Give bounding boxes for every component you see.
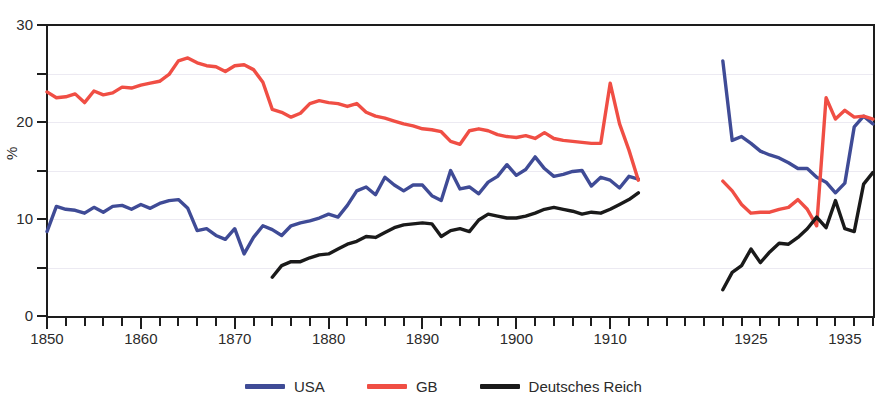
x-tick-1888 <box>403 318 405 326</box>
x-tick-1938 <box>872 318 874 326</box>
y-tick-label-0: 0 <box>0 308 33 323</box>
x-tick-1924 <box>741 318 743 326</box>
series-line-gb-seg1 <box>47 58 638 180</box>
series-line-deutsches-reich-seg1 <box>272 193 638 277</box>
x-tick-1902 <box>534 318 536 326</box>
y-tick-label-20: 20 <box>0 114 33 129</box>
x-tick-1908 <box>590 318 592 326</box>
y-tick-label-30: 30 <box>0 17 33 32</box>
x-tick-1900 <box>515 318 517 329</box>
x-tick-1912 <box>628 318 630 326</box>
x-tick-1872 <box>253 318 255 326</box>
y-tick-major-0 <box>37 315 46 317</box>
x-tick-1922 <box>722 318 724 326</box>
legend-item-gb[interactable]: GB <box>367 379 438 394</box>
y-tick-major-30 <box>37 24 46 26</box>
x-tick-1906 <box>572 318 574 326</box>
plot-frame-left <box>46 24 48 318</box>
x-tick-1882 <box>346 318 348 326</box>
x-tick-1896 <box>478 318 480 326</box>
y-tick-major-20 <box>37 121 46 123</box>
x-tick-label-1890: 1890 <box>392 331 452 346</box>
x-tick-1858 <box>121 318 123 326</box>
legend-label: GB <box>416 379 438 394</box>
legend-swatch-icon <box>367 384 407 389</box>
series-line-deutsches-reich-seg2 <box>723 172 873 289</box>
gridline-y-15 <box>48 171 873 172</box>
x-tick-label-1900: 1900 <box>486 331 546 346</box>
x-tick-1850 <box>46 318 48 329</box>
x-tick-1910 <box>609 318 611 329</box>
gridline-y-10 <box>48 219 873 220</box>
x-tick-1860 <box>140 318 142 329</box>
chart-legend: USAGBDeutsches Reich <box>0 379 887 394</box>
x-tick-label-1910: 1910 <box>580 331 640 346</box>
gridline-y-20 <box>48 122 873 123</box>
x-tick-1894 <box>459 318 461 326</box>
x-tick-1920 <box>703 318 705 326</box>
x-tick-1886 <box>384 318 386 326</box>
x-tick-1878 <box>309 318 311 326</box>
legend-item-usa[interactable]: USA <box>245 379 325 394</box>
x-tick-1852 <box>65 318 67 326</box>
x-tick-1856 <box>102 318 104 326</box>
plot-frame-top <box>46 24 875 26</box>
gridline-y-5 <box>48 268 873 269</box>
x-tick-1918 <box>684 318 686 326</box>
x-tick-1866 <box>196 318 198 326</box>
x-tick-1892 <box>440 318 442 326</box>
x-tick-1876 <box>290 318 292 326</box>
x-tick-1884 <box>365 318 367 326</box>
plot-frame-right <box>873 24 875 318</box>
line-chart: 0102030 % 185018601870188018901900191019… <box>0 0 887 415</box>
x-tick-1904 <box>553 318 555 326</box>
x-tick-1934 <box>834 318 836 326</box>
gridline-y-25 <box>48 74 873 75</box>
legend-label: Deutsches Reich <box>529 379 642 394</box>
y-tick-label-10: 10 <box>0 211 33 226</box>
legend-item-deutsches-reich[interactable]: Deutsches Reich <box>480 379 642 394</box>
x-tick-label-1870: 1870 <box>205 331 265 346</box>
x-tick-1932 <box>816 318 818 326</box>
y-tick-minor-25 <box>37 73 46 75</box>
y-tick-major-10 <box>37 218 46 220</box>
plot-frame-bottom <box>46 316 875 318</box>
x-tick-1930 <box>797 318 799 326</box>
series-line-gb-seg2 <box>723 98 873 226</box>
x-tick-1854 <box>84 318 86 326</box>
y-tick-minor-5 <box>37 267 46 269</box>
x-tick-1880 <box>328 318 330 329</box>
x-tick-label-1860: 1860 <box>111 331 171 346</box>
y-tick-minor-15 <box>37 170 46 172</box>
x-tick-1928 <box>778 318 780 326</box>
x-tick-1874 <box>271 318 273 326</box>
x-tick-1864 <box>177 318 179 326</box>
x-tick-1916 <box>666 318 668 326</box>
series-container <box>0 0 887 415</box>
x-tick-1936 <box>853 318 855 326</box>
x-tick-1926 <box>759 318 761 326</box>
y-axis-title: % <box>3 147 20 160</box>
x-tick-label-1935: 1935 <box>815 331 875 346</box>
series-line-usa-seg2 <box>723 61 873 193</box>
legend-swatch-icon <box>480 384 520 389</box>
x-tick-1898 <box>497 318 499 326</box>
x-tick-label-1880: 1880 <box>299 331 359 346</box>
x-tick-1868 <box>215 318 217 326</box>
x-tick-label-1925: 1925 <box>721 331 781 346</box>
legend-label: USA <box>294 379 325 394</box>
x-tick-1870 <box>234 318 236 329</box>
x-tick-1914 <box>647 318 649 326</box>
x-tick-label-1850: 1850 <box>17 331 77 346</box>
x-tick-1890 <box>421 318 423 329</box>
x-tick-1862 <box>159 318 161 326</box>
legend-swatch-icon <box>245 384 285 389</box>
